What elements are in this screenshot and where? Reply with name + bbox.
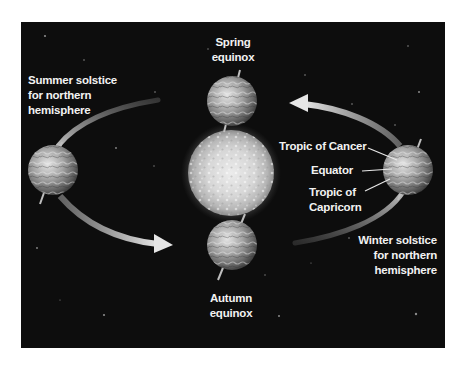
- label-winter-solstice: Winter solstice for northern hemisphere: [358, 233, 437, 278]
- label-spring-equinox: Spring equinox: [207, 35, 259, 65]
- equator-text: Equator: [311, 163, 353, 178]
- winter-line1: Winter solstice: [358, 233, 437, 248]
- autumn-line2: equinox: [201, 306, 261, 321]
- autumn-line1: Autumn: [201, 291, 261, 306]
- spring-line2: equinox: [207, 50, 259, 65]
- tropic-capricorn-line2: Capricorn: [309, 200, 362, 215]
- label-tropic-of-capricorn: Tropic of Capricorn: [309, 185, 362, 215]
- winter-line3: hemisphere: [358, 263, 437, 278]
- sun: [181, 123, 281, 223]
- label-equator: Equator: [311, 163, 353, 178]
- summer-line1: Summer solstice: [28, 73, 117, 88]
- summer-line2: for northern: [28, 88, 117, 103]
- summer-line3: hemisphere: [28, 103, 117, 118]
- seasons-diagram: Spring equinox Summer solstice for north…: [0, 0, 460, 368]
- label-autumn-equinox: Autumn equinox: [201, 291, 261, 321]
- label-summer-solstice: Summer solstice for northern hemisphere: [28, 73, 117, 118]
- label-tropic-of-cancer: Tropic of Cancer: [279, 139, 367, 154]
- tropic-capricorn-line1: Tropic of: [309, 185, 362, 200]
- spring-line1: Spring: [207, 35, 259, 50]
- winter-line2: for northern: [358, 248, 437, 263]
- tropic-cancer-text: Tropic of Cancer: [279, 139, 367, 154]
